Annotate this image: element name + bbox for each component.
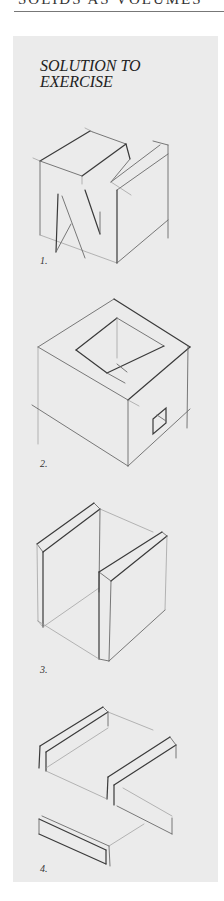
panel-title-line1: SOLUTION TO [40,57,141,74]
figure-label: 1. [40,255,48,266]
figure-1: 1. [13,100,218,272]
figure-3: 3. [13,484,218,680]
figure-label: 3. [40,664,48,675]
panel-title-line2: EXERCISE [40,73,113,90]
notched-cube-sketch-icon [13,100,218,272]
panel-title: SOLUTION TO EXERCISE [40,58,141,90]
figure-label: 2. [40,458,48,469]
running-head: Solids as Volumes [18,0,203,8]
three-beams-sketch-icon [13,688,218,876]
figure-4: 4. [13,688,218,876]
hollow-cube-sketch-icon [13,288,218,476]
two-slabs-sketch-icon [13,484,218,680]
solution-panel: SOLUTION TO EXERCISE [13,36,218,882]
header-rule [14,11,224,12]
figure-label: 4. [40,863,48,874]
figure-2: 2. [13,288,218,476]
